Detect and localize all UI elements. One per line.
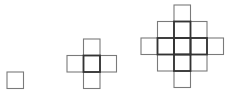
square-cell-bold [174,38,191,55]
square-cell [158,55,175,72]
figure-1 [7,72,24,89]
square-cell [174,5,191,22]
figure-3 [141,5,224,88]
square-cell [100,56,117,73]
square-cell [84,39,101,56]
square-cell [67,56,84,73]
figure-2 [67,39,117,89]
square-cell [84,72,101,89]
square-cell [207,38,224,55]
square-cell-bold [174,22,191,39]
square-cell [141,38,158,55]
pattern-diagram [0,0,228,99]
square-cell [174,71,191,88]
square-cell [191,55,208,72]
square-cell-bold [174,55,191,72]
square-cell [191,22,208,39]
square-cell [158,22,175,39]
square-cell [7,72,24,89]
square-cell-bold [84,56,101,73]
square-cell-bold [191,38,208,55]
square-cell-bold [158,38,175,55]
